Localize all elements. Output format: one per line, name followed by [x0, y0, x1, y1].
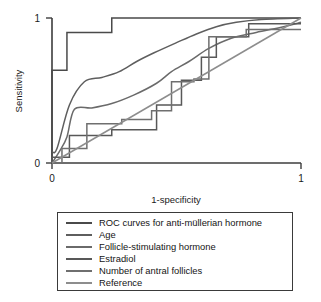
roc-curve [52, 18, 301, 153]
legend-item-label: Reference [99, 278, 142, 288]
legend-item-label: Number of antral follicles [99, 266, 202, 276]
series-layer [52, 18, 301, 163]
legend-item-label: ROC curves for anti-müllerian hormone [99, 218, 262, 228]
roc-plot-area: 1 0 0 1 1-specificity Sensitivity [0, 0, 321, 210]
legend-item: Follicle-stimulating hormone [58, 241, 292, 253]
legend-color-swatch [66, 258, 92, 260]
legend-item: Estradiol [58, 253, 292, 265]
y-axis-title: Sensitivity [13, 69, 24, 112]
roc-figure: 1 0 0 1 1-specificity Sensitivity ROC cu… [0, 0, 321, 302]
legend-item: Reference [58, 277, 292, 289]
legend-color-swatch [66, 246, 92, 248]
roc-curve [52, 18, 301, 163]
x-axis-tick-label-max: 1 [298, 173, 304, 184]
legend-item: Age [58, 229, 292, 241]
legend-item-label: Estradiol [99, 254, 135, 264]
x-axis-tick-label-min: 0 [49, 173, 55, 184]
legend-color-swatch [66, 270, 92, 272]
legend-color-swatch [66, 234, 92, 236]
chart-legend: ROC curves for anti-müllerian hormoneAge… [57, 212, 293, 291]
roc-curve [52, 30, 301, 163]
legend-item: ROC curves for anti-müllerian hormone [58, 217, 292, 229]
legend-item-label: Age [99, 230, 116, 240]
legend-color-swatch [66, 282, 92, 284]
y-axis-tick-label-max: 1 [34, 13, 40, 24]
legend-item-label: Follicle-stimulating hormone [99, 242, 216, 252]
x-axis-title: 1-specificity [151, 194, 201, 205]
legend-color-swatch [66, 222, 92, 224]
legend-item: Number of antral follicles [58, 265, 292, 277]
roc-curve [52, 24, 301, 163]
y-axis-tick-label-min: 0 [34, 158, 40, 169]
